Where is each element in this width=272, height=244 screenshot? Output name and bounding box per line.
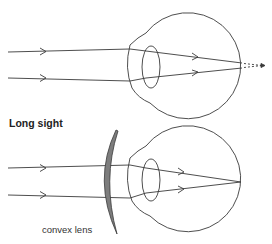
dashed-extension	[244, 64, 262, 68]
ray-top	[8, 165, 241, 182]
ray-bottom	[8, 182, 241, 198]
convex-lens-icon	[104, 130, 118, 234]
focus-point-icon	[261, 64, 265, 68]
ray-bottom	[8, 68, 242, 81]
arrow-icon	[40, 165, 46, 172]
convex-lens-label: convex lens	[42, 224, 92, 235]
arrow-icon	[40, 192, 46, 199]
long-sight-title: Long sight	[9, 117, 63, 129]
eyeball-outline	[127, 13, 240, 119]
eyeball-outline	[127, 126, 240, 232]
bottom-eye	[8, 126, 241, 232]
top-eye	[8, 13, 265, 119]
ray-top	[8, 49, 242, 63]
arrow-icon	[178, 168, 184, 175]
arrow-icon	[40, 75, 46, 82]
eye-lens	[142, 159, 160, 201]
